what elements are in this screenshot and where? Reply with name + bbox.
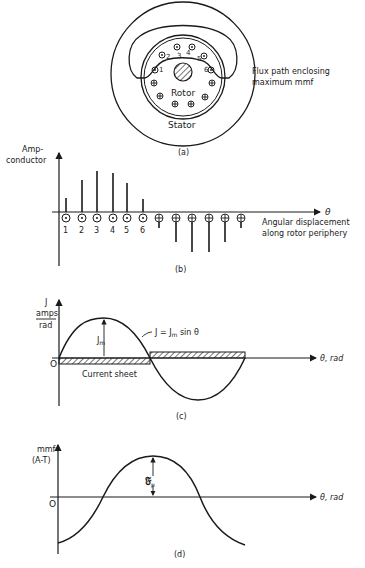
x-label: θ, rad: [320, 493, 344, 502]
y-label-j: J: [44, 298, 47, 307]
y-label-amps: amps: [36, 309, 58, 318]
panel-d-mmf-chart: mmf (A-T) O 𝔉p θ, rad (d): [32, 445, 344, 559]
conductor-symbols-dot: [62, 214, 147, 222]
diagram-canvas: 1 2 3 4 5 6 Rotor Stator Flux path enclo…: [0, 0, 365, 568]
conductor-number-6: 6: [204, 66, 209, 74]
flux-label-line1: Flux path enclosing: [252, 67, 330, 76]
conductor-number-4: 4: [186, 49, 191, 57]
tick-6: 6: [140, 226, 145, 235]
equation-label: J = Jm sin θ: [154, 328, 199, 338]
equation-leader: [142, 332, 152, 337]
tick-5: 5: [124, 226, 129, 235]
rotor-label: Rotor: [171, 88, 195, 98]
y-label-units: (A-T): [32, 456, 51, 465]
conductor-number-1: 1: [159, 66, 163, 74]
caption-a: (a): [178, 148, 189, 157]
tick-2: 2: [79, 226, 84, 235]
y-label-line1: Amp-: [22, 145, 43, 154]
conductor-number-5: 5: [197, 55, 201, 63]
tick-4: 4: [110, 226, 115, 235]
caption-b: (b): [175, 265, 186, 274]
current-sheet-label: Current sheet: [82, 370, 137, 379]
tick-3: 3: [94, 226, 99, 235]
shaft: [174, 63, 192, 81]
conductor-number-3: 3: [177, 52, 181, 60]
caption-c: (c): [176, 412, 187, 421]
current-sheet-negative: [59, 358, 150, 364]
mmf-curve: [58, 456, 245, 545]
x-label-line2: along rotor periphery: [262, 229, 347, 238]
caption-d: (d): [174, 550, 185, 559]
y-label-line2: conductor: [6, 156, 47, 165]
peak-label: 𝔉p: [145, 475, 155, 489]
current-sheet-positive: [150, 352, 245, 358]
y-label-mmf: mmf: [37, 445, 56, 454]
panel-a-machine-cross-section: 1 2 3 4 5 6 Rotor Stator Flux path enclo…: [111, 2, 330, 157]
x-label-line1: Angular displacement: [262, 218, 350, 227]
conductor-symbols-cross: [155, 214, 245, 222]
positive-bars: [66, 171, 143, 212]
origin-label: O: [50, 359, 57, 369]
origin-label: O: [49, 499, 56, 509]
negative-bars: [159, 222, 241, 252]
stator-label: Stator: [168, 120, 196, 130]
x-label: θ, rad: [320, 354, 344, 363]
x-symbol-theta: θ: [325, 207, 331, 217]
panel-c-current-sheet-chart: J amps rad O Jm J = Jm sin θ Current she…: [36, 298, 344, 421]
tick-1: 1: [63, 226, 68, 235]
flux-label-line2: maximum mmf: [252, 78, 313, 87]
conductor-number-2: 2: [166, 53, 170, 61]
panel-b-amp-conductor-chart: Amp- conductor θ Angular displacement al…: [6, 145, 350, 274]
y-label-rad: rad: [39, 321, 52, 330]
